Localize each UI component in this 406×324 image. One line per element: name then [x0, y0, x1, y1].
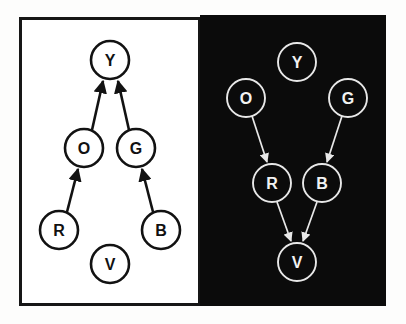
node-g[interactable]: G [329, 79, 367, 117]
node-label-r: R [53, 222, 65, 239]
node-y[interactable]: Y [278, 43, 316, 81]
edge-g-to-b [327, 116, 342, 162]
node-o[interactable]: O [65, 129, 103, 167]
node-g[interactable]: G [117, 129, 155, 167]
right-panel-nodes: YOGRBV [227, 43, 367, 281]
node-label-b: B [316, 175, 328, 192]
node-label-y: Y [105, 52, 116, 69]
node-label-v: V [292, 254, 303, 271]
node-label-g: G [342, 90, 354, 107]
node-label-o: O [78, 140, 90, 157]
left-panel-nodes: YOGRBV [40, 41, 180, 283]
node-b[interactable]: B [142, 211, 180, 249]
edge-g-to-y [118, 81, 129, 130]
edge-o-to-r [252, 116, 267, 162]
figure-root: YOGRBV YOGRBV [0, 0, 406, 324]
node-label-b: B [155, 222, 167, 239]
edge-r-to-o [67, 169, 78, 212]
node-r[interactable]: R [40, 211, 78, 249]
node-y[interactable]: Y [91, 41, 129, 79]
edge-b-to-v [303, 202, 317, 241]
node-v[interactable]: V [91, 245, 129, 283]
node-label-o: O [240, 90, 252, 107]
node-o[interactable]: O [227, 79, 265, 117]
edge-b-to-g [142, 169, 153, 212]
graph-layer: YOGRBV YOGRBV [0, 0, 406, 324]
node-label-r: R [266, 175, 278, 192]
edge-r-to-v [277, 202, 291, 241]
node-r[interactable]: R [253, 164, 291, 202]
node-b[interactable]: B [303, 164, 341, 202]
node-label-g: G [130, 140, 142, 157]
node-v[interactable]: V [278, 243, 316, 281]
node-label-y: Y [292, 54, 303, 71]
edge-o-to-y [92, 81, 103, 130]
node-label-v: V [105, 256, 116, 273]
